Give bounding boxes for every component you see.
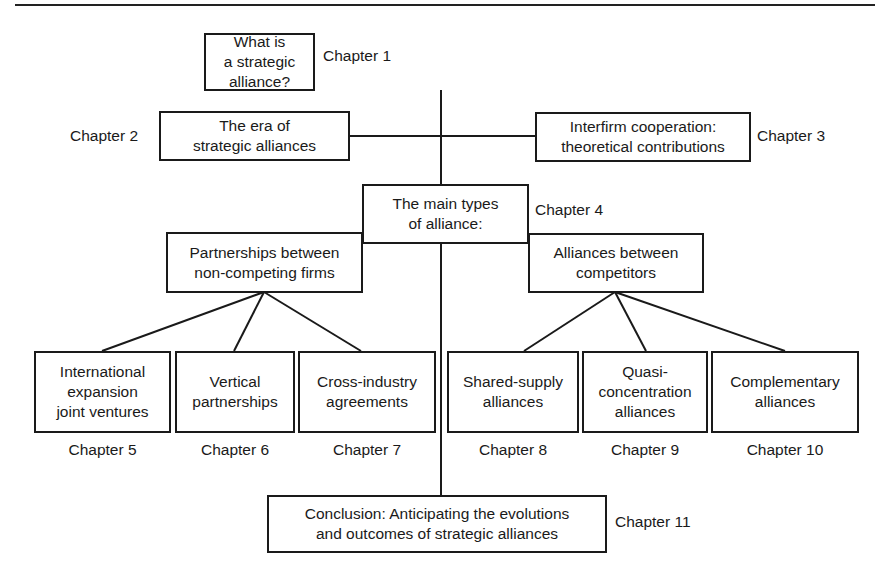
node-what-is-strategic-alliance: What is a strategic alliance? [204, 33, 315, 91]
node-label: Shared-supply alliances [463, 372, 563, 412]
node-label: Quasi- concentration alliances [598, 362, 691, 422]
node-non-competing-partnerships: Partnerships between non-competing firms [166, 232, 363, 293]
node-shared-supply-alliances: Shared-supply alliances [447, 351, 579, 433]
node-label: Vertical partnerships [192, 372, 277, 412]
node-label: Cross-industry agreements [317, 372, 417, 412]
node-alliances-between-competitors: Alliances between competitors [528, 233, 704, 293]
node-label: What is a strategic alliance? [210, 32, 309, 92]
node-label: The era of strategic alliances [193, 116, 316, 156]
node-conclusion: Conclusion: Anticipating the evolutions … [267, 495, 607, 553]
node-quasi-concentration-alliances: Quasi- concentration alliances [582, 351, 708, 433]
node-era-of-alliances: The era of strategic alliances [159, 111, 350, 161]
chapter-label-9: Chapter 9 [582, 440, 708, 460]
node-complementary-alliances: Complementary alliances [711, 351, 859, 433]
node-international-joint-ventures: International expansion joint ventures [34, 351, 171, 433]
node-label: Complementary alliances [730, 372, 839, 412]
node-cross-industry-agreements: Cross-industry agreements [298, 351, 436, 433]
chapter-label-7: Chapter 7 [298, 440, 436, 460]
chapter-label-5: Chapter 5 [34, 440, 171, 460]
node-label: Alliances between competitors [554, 243, 679, 283]
chapter-label-8: Chapter 8 [447, 440, 579, 460]
node-main-types: The main types of alliance: [362, 184, 529, 244]
node-interfirm-cooperation: Interfirm cooperation: theoretical contr… [535, 112, 751, 162]
chapter-label-2: Chapter 2 [70, 126, 138, 146]
chapter-label-11: Chapter 11 [615, 512, 691, 532]
node-label: International expansion joint ventures [56, 362, 148, 422]
node-label: Partnerships between non-competing firms [190, 243, 340, 283]
chapter-label-6: Chapter 6 [175, 440, 295, 460]
chapter-label-10: Chapter 10 [711, 440, 859, 460]
node-label: Conclusion: Anticipating the evolutions … [305, 504, 570, 544]
chapter-label-3: Chapter 3 [757, 126, 825, 146]
chapter-label-4: Chapter 4 [535, 200, 603, 220]
chapter-label-1: Chapter 1 [323, 46, 391, 66]
node-label: Interfirm cooperation: theoretical contr… [561, 117, 725, 157]
node-vertical-partnerships: Vertical partnerships [175, 351, 295, 433]
node-label: The main types of alliance: [393, 194, 499, 234]
